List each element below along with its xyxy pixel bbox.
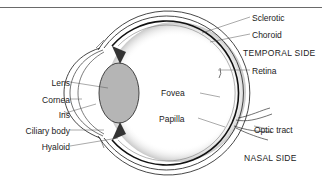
label-temporal-side: TEMPORAL SIDE [243,48,316,58]
label-lens: Lens [52,78,70,88]
label-iris: Iris [59,110,70,120]
label-retina: Retina [252,66,277,76]
label-nasal-side: NASAL SIDE [244,153,297,163]
label-hyaloid: Hyaloid [42,142,70,152]
label-sclerotic: Sclerotic [252,13,285,23]
label-ciliary-body: Ciliary body [26,126,70,136]
cornea-inner [70,50,103,136]
lens-shape [99,63,139,123]
iris-strand-bottom [100,138,104,148]
label-papilla: Papilla [159,114,185,124]
label-fovea: Fovea [161,88,185,98]
cornea-shape [64,48,100,138]
label-optic-tract: Optic tract [254,125,293,135]
label-cornea: Cornea [42,95,70,105]
label-choroid: Choroid [252,30,282,40]
